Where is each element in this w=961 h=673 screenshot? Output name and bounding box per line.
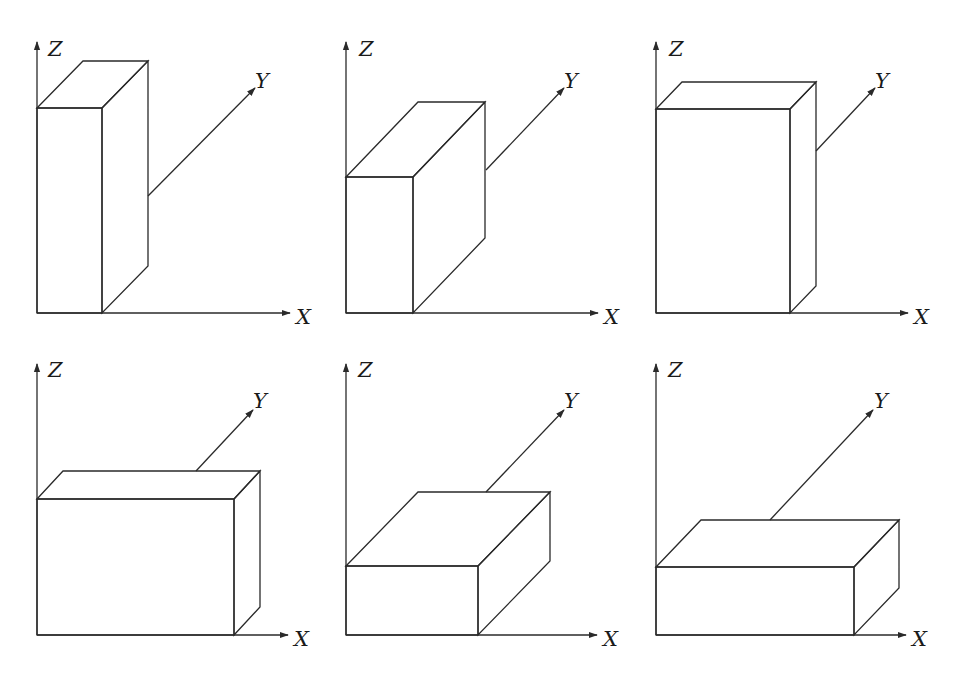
- y-axis: [148, 88, 255, 196]
- box-front-face: [37, 499, 234, 635]
- y-axis-label: Y: [255, 69, 271, 93]
- box-side-face: [854, 520, 899, 635]
- figure-canvas: ZXYZXYZXYZXYZXYZXY: [0, 0, 961, 673]
- box-front-face: [656, 109, 790, 313]
- x-axis-label: X: [910, 627, 928, 651]
- y-axis-label: Y: [564, 389, 580, 413]
- box-front-face: [37, 108, 102, 313]
- box-front-face: [346, 566, 478, 635]
- y-axis: [486, 410, 564, 492]
- y-axis: [770, 410, 873, 520]
- z-axis-label: Z: [357, 358, 373, 382]
- panel-2: ZXY: [346, 37, 620, 329]
- panel-6: ZXY: [656, 358, 928, 651]
- y-axis: [486, 88, 564, 170]
- box-top-face: [346, 492, 550, 566]
- box-side-face: [413, 102, 485, 313]
- box-side-face: [102, 61, 148, 313]
- y-axis-label: Y: [875, 69, 891, 93]
- box-side-face: [234, 471, 260, 635]
- box-side-face: [790, 82, 816, 313]
- box-top-face: [656, 520, 899, 567]
- y-axis: [196, 410, 253, 471]
- z-axis-label: Z: [668, 37, 684, 61]
- box-front-face: [656, 567, 854, 635]
- y-axis: [816, 88, 875, 151]
- box-side-face: [478, 492, 550, 635]
- panel-1: ZXY: [37, 37, 312, 329]
- y-axis-label: Y: [253, 389, 269, 413]
- z-axis-label: Z: [667, 358, 683, 382]
- x-axis-label: X: [292, 627, 310, 651]
- box-front-face: [346, 177, 413, 313]
- z-axis-label: Z: [358, 37, 374, 61]
- panel-3: ZXY: [656, 37, 930, 329]
- box-top-face: [37, 471, 260, 499]
- x-axis-label: X: [294, 305, 312, 329]
- y-axis-label: Y: [874, 389, 890, 413]
- x-axis-label: X: [602, 305, 620, 329]
- box-top-face: [656, 82, 816, 109]
- box-top-face: [346, 102, 485, 177]
- x-axis-label: X: [601, 627, 619, 651]
- z-axis-label: Z: [47, 358, 63, 382]
- z-axis-label: Z: [47, 37, 63, 61]
- y-axis-label: Y: [564, 69, 580, 93]
- panel-4: ZXY: [37, 358, 310, 651]
- x-axis-label: X: [912, 305, 930, 329]
- panel-5: ZXY: [346, 358, 619, 651]
- box-top-face: [37, 61, 148, 108]
